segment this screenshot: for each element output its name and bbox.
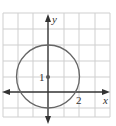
y-axis-label: y: [51, 13, 57, 25]
x-axis-label: x: [102, 94, 108, 106]
coordinate-plane: y x 2 1: [0, 0, 116, 126]
y-tick-label: 1: [39, 71, 45, 83]
y-axis-arrow-down-icon: [45, 116, 51, 124]
center-point: [46, 75, 50, 79]
y-axis-arrow-up-icon: [45, 14, 51, 22]
x-tick-label: 2: [76, 94, 82, 106]
